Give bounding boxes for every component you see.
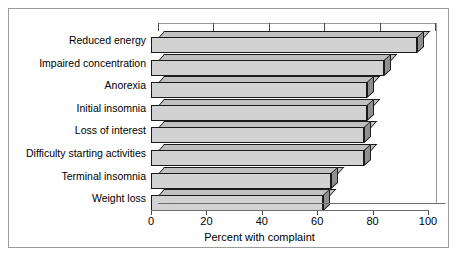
x-tick-label: 40	[256, 215, 268, 227]
bar	[151, 144, 371, 161]
bar-front-face	[151, 82, 367, 98]
bars-group	[9, 9, 450, 249]
x-tick-label: 100	[419, 215, 437, 227]
x-tick-top	[324, 23, 325, 31]
x-tick-label: 0	[148, 215, 154, 227]
bar-front-face	[151, 127, 364, 143]
bar-front-face	[151, 150, 364, 166]
bar-front-face	[151, 173, 331, 189]
bar	[151, 121, 371, 138]
x-tick-label: 60	[311, 215, 323, 227]
bar-side-face	[323, 189, 330, 211]
x-tick-top	[269, 23, 270, 31]
x-axis-back-line	[158, 203, 436, 204]
plot-right-wall-edge	[436, 23, 437, 204]
bar	[151, 76, 374, 93]
bar	[151, 99, 374, 116]
bar-front-face	[151, 60, 384, 76]
x-tick-top	[158, 23, 159, 31]
plot-back-top-edge	[158, 23, 436, 24]
plot-area: Reduced energyImpaired concentrationAnor…	[9, 9, 450, 249]
x-axis-title-text: Percent with complaint	[204, 231, 315, 243]
x-tick-top	[380, 23, 381, 31]
chart-figure: Reduced energyImpaired concentrationAnor…	[8, 8, 449, 248]
x-axis-title: Percent with complaint	[9, 231, 450, 243]
bar-front-face	[151, 105, 367, 121]
bar-side-face	[364, 121, 371, 143]
bar-front-face	[151, 37, 417, 53]
x-tick-top	[435, 23, 436, 31]
x-tick-top	[213, 23, 214, 31]
bar	[151, 31, 424, 48]
x-axis-line	[151, 210, 429, 211]
x-tick-label: 80	[366, 215, 378, 227]
x-tick-label: 20	[200, 215, 212, 227]
bar	[151, 54, 391, 71]
bar	[151, 167, 338, 184]
bar-side-face	[367, 76, 374, 98]
